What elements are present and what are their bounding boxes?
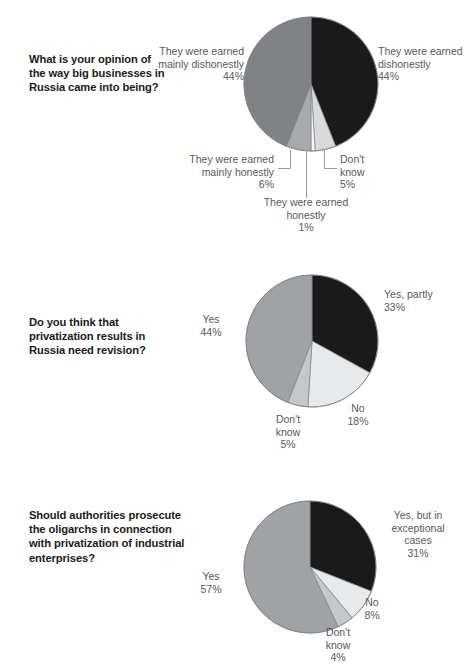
callout-earned-mainly-dishonestly: They were earned mainly dishonestly 44%	[148, 45, 244, 83]
callout-yes: Yes 44%	[186, 313, 236, 338]
callout-earned-dishonestly: They were earned dishonestly 44%	[378, 45, 465, 83]
pie-chart-2: Yes, partly 33%No 18%Don't know 5%Yes 44…	[245, 274, 379, 408]
question-text-2: Do you think that privatization results …	[29, 315, 179, 358]
callout-no: No 8%	[352, 596, 392, 621]
pie-svg-1: They were earned dishonestly 44%Don't kn…	[243, 16, 379, 152]
callout-yes-partly: Yes, partly 33%	[384, 288, 462, 313]
leader-line-mainly-honestly-v	[290, 150, 291, 168]
callout-yes: Yes 57%	[186, 570, 236, 595]
callout-earned-honestly: They were earned honestly 1%	[253, 196, 359, 234]
leader-line-mainly-honestly-h	[278, 168, 291, 169]
callout-dont-know: Don't know 5%	[340, 153, 400, 191]
pie-chart-1: They were earned dishonestly 44%Don't kn…	[243, 16, 379, 152]
chart-panel-2: Do you think that privatization results …	[0, 250, 465, 470]
pie-svg-2: Yes, partly 33%No 18%Don't know 5%Yes 44…	[245, 274, 379, 408]
chart-panel-3: Should authorities prosecute the oligarc…	[0, 470, 465, 670]
leader-line-dont-know-h	[324, 168, 337, 169]
callout-dont-know: Don't know 5%	[262, 413, 314, 451]
poll-infographic: What is your opinion of the way big busi…	[0, 0, 465, 670]
chart-panel-1: What is your opinion of the way big busi…	[0, 0, 465, 250]
leader-line-dont-know-v	[324, 150, 325, 168]
callout-yes-but-exceptional: Yes, but in exceptional cases 31%	[376, 509, 460, 559]
leader-line-honestly-v	[306, 150, 307, 198]
callout-earned-mainly-honestly: They were earned mainly honestly 6%	[166, 153, 274, 191]
callout-no: No 18%	[336, 402, 380, 427]
callout-dont-know: Don't know 4%	[312, 626, 364, 664]
question-text-3: Should authorities prosecute the oligarc…	[29, 508, 194, 565]
